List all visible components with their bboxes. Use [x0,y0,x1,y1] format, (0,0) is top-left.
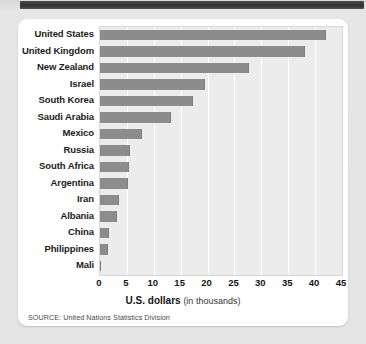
category-label: Saudi Arabia [18,109,94,126]
category-label: South Africa [18,158,94,175]
bar [100,178,128,189]
source-note: SOURCE: United Nations Statistics Divisi… [28,313,170,322]
bar-row [100,192,342,209]
bar [100,79,205,90]
category-label: United States [18,26,94,43]
bar-row [100,44,342,61]
category-label: Albania [18,208,94,225]
bar-row [100,176,342,193]
value-tick-label: 30 [255,277,266,288]
category-label: Iran [18,191,94,208]
bar [100,145,130,156]
category-label: New Zealand [18,59,94,76]
value-tick-label: 40 [309,277,320,288]
bar-row [100,126,342,143]
value-tick-label: 0 [96,277,101,288]
bar [100,162,129,173]
bar-row [100,242,342,259]
value-tick-label: 15 [174,277,185,288]
bar-row [100,143,342,160]
bar [100,211,117,222]
bar-row [100,60,342,77]
bar-row [100,77,342,94]
value-axis-ticks: 051015202530354045 [99,277,341,291]
category-label: Israel [18,76,94,93]
bar [100,112,171,123]
value-tick-label: 5 [123,277,128,288]
category-label: South Korea [18,92,94,109]
category-label: Russia [18,142,94,159]
bar [100,244,108,255]
category-label: Philippines [18,241,94,258]
bar [100,228,109,239]
value-tick-label: 10 [147,277,158,288]
category-label: Mexico [18,125,94,142]
axis-title-sub: (in thousands) [183,296,240,306]
axis-title-strong: U.S. dollars [126,295,181,306]
category-label: United Kingdom [18,43,94,60]
category-label: China [18,224,94,241]
bar [100,129,142,140]
bar [100,96,193,107]
bar-row [100,209,342,226]
bar-series [100,27,342,275]
bar-row [100,93,342,110]
bar-row [100,27,342,44]
category-label: Mali [18,257,94,274]
bar [100,195,119,206]
header-strip [20,1,364,9]
category-axis-labels: United StatesUnited KingdomNew ZealandIs… [18,26,94,274]
axis-title: U.S. dollars (in thousands) [18,295,348,306]
plot-area [99,26,343,276]
value-tick-label: 35 [282,277,293,288]
bar-chart: United StatesUnited KingdomNew ZealandIs… [18,19,348,326]
chart-card: United StatesUnited KingdomNew ZealandIs… [18,19,348,326]
bar [100,46,305,57]
category-label: Argentina [18,175,94,192]
bar-row [100,159,342,176]
value-tick-label: 45 [336,277,347,288]
value-tick-label: 25 [228,277,239,288]
bar-row [100,225,342,242]
value-tick-label: 20 [201,277,212,288]
bar [100,30,326,41]
bar-row [100,110,342,127]
bar [100,63,249,74]
bar [100,261,101,272]
bar-row [100,258,342,275]
